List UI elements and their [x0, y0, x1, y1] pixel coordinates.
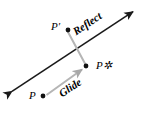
point-label-p: P	[29, 90, 36, 101]
glide-reflection-figure: P′ P✲ P Reflect Glide	[0, 0, 144, 116]
point-dot-p-star	[84, 64, 89, 69]
point-dot-p-prime	[66, 28, 71, 33]
point-dot-p	[41, 94, 46, 99]
figure-canvas	[0, 0, 144, 116]
point-label-p-prime: P′	[51, 21, 60, 32]
point-label-p-star: P✲	[96, 60, 112, 71]
